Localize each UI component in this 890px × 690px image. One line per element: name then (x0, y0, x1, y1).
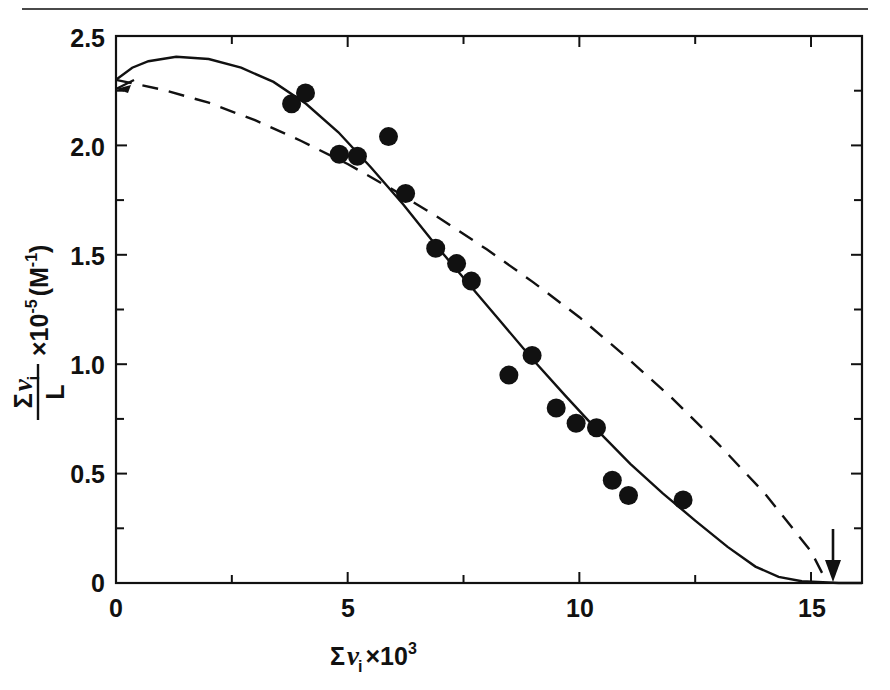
x-title-sigma: Σ (330, 642, 345, 670)
y-axis-title: Σνi L ×10-5(M-1) (8, 245, 69, 420)
y-title-units-close: ) (25, 245, 53, 253)
dashed-line-series (116, 80, 827, 583)
data-point (567, 414, 586, 433)
data-point (296, 83, 315, 102)
data-point (379, 127, 398, 146)
x-axis-title: Σνi×103 (330, 640, 417, 675)
data-point (396, 184, 415, 203)
solid-curve-series (116, 57, 862, 583)
figure-container: 0 5 10 15 0 0.5 1.0 1.5 2.0 2.5 Σνi×103 … (0, 0, 890, 690)
svg-text:Σνi×103: Σνi×103 (330, 640, 417, 675)
x-tick-label-0: 0 (109, 594, 123, 622)
data-point (499, 366, 518, 385)
down-arrow-marker (825, 529, 841, 582)
y-title-sub: i (25, 376, 42, 380)
y-title-units-exp: -1 (23, 253, 40, 267)
y-tick-label-2-5: 2.5 (70, 24, 105, 52)
x-tick-label-15: 15 (798, 594, 826, 622)
x-title-exp: 3 (408, 640, 417, 657)
scatchard-plot: 0 5 10 15 0 0.5 1.0 1.5 2.0 2.5 Σνi×103 … (0, 0, 890, 690)
x-title-sub: i (358, 658, 362, 675)
data-point (523, 346, 542, 365)
y-title-units: (M (25, 267, 53, 296)
x-tick-label-5: 5 (341, 594, 355, 622)
y-title-times: ×10 (25, 314, 53, 356)
data-point (462, 272, 481, 291)
y-title-sigma: Σ (9, 393, 37, 408)
data-point (603, 471, 622, 490)
data-point (619, 486, 638, 505)
svg-text:×10-5(M-1): ×10-5(M-1) (23, 245, 53, 356)
data-point-group (282, 83, 692, 509)
x-title-times: ×10 (365, 642, 407, 670)
y-tick-label-0: 0 (91, 569, 105, 597)
y-tick-label-1-0: 1.0 (70, 351, 105, 379)
y-tick-label-2-0: 2.0 (70, 133, 105, 161)
data-point (587, 418, 606, 437)
y-title-exp: -5 (23, 299, 40, 313)
data-point (348, 147, 367, 166)
data-point (426, 239, 445, 258)
y-title-denominator: L (41, 384, 69, 399)
y-tick-label-0-5: 0.5 (70, 460, 105, 488)
data-point (447, 254, 466, 273)
data-point (330, 145, 349, 164)
data-point (547, 399, 566, 418)
y-tick-label-1-5: 1.5 (70, 242, 105, 270)
x-tick-label-10: 10 (566, 594, 594, 622)
data-point (674, 490, 693, 509)
